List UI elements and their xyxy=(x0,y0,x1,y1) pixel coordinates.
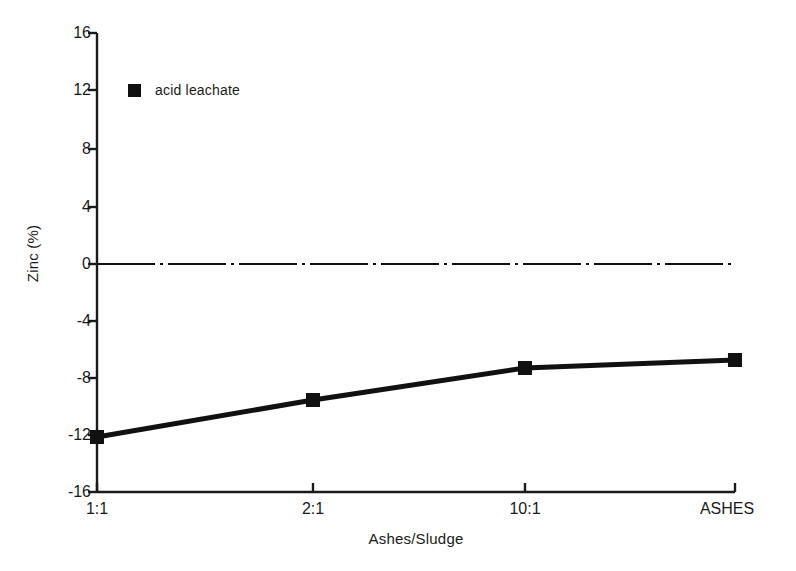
x-axis-ticks xyxy=(97,483,735,492)
x-tick-label-2to1: 2:1 xyxy=(253,500,373,518)
y-tick-label: -4 xyxy=(45,313,91,329)
chart-figure: 16 12 8 4 0 -4 -8 -12 -16 1:1 2:1 10:1 A… xyxy=(0,0,796,571)
legend-label-acid-leachate: acid leachate xyxy=(155,82,240,98)
y-tick-label: 0 xyxy=(45,256,91,272)
x-tick-label-ashes: ASHES xyxy=(667,500,787,518)
legend-swatch-icon xyxy=(128,84,141,97)
data-point-marker xyxy=(306,393,320,407)
y-tick-label: -8 xyxy=(45,370,91,386)
data-point-marker xyxy=(728,353,742,367)
plot-area xyxy=(0,0,796,571)
y-tick-label: -12 xyxy=(45,427,91,443)
data-point-marker xyxy=(518,361,532,375)
x-tick-label-1to1: 1:1 xyxy=(37,500,157,518)
y-tick-label: 8 xyxy=(45,141,91,157)
y-tick-label: 12 xyxy=(45,82,91,98)
series-line-acid-leachate xyxy=(97,360,735,437)
y-tick-label: 4 xyxy=(45,199,91,215)
series-markers-acid-leachate xyxy=(90,353,742,444)
x-axis-label: Ashes/Sludge xyxy=(97,530,735,547)
chart-legend: acid leachate xyxy=(128,82,240,98)
x-tick-label-10to1: 10:1 xyxy=(465,500,585,518)
y-axis-label: Zinc (%) xyxy=(24,204,41,304)
y-tick-label: 16 xyxy=(45,25,91,41)
y-tick-label: -16 xyxy=(45,484,91,500)
data-point-marker xyxy=(90,430,104,444)
